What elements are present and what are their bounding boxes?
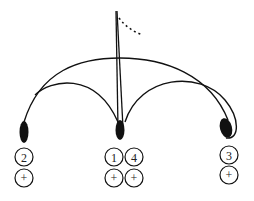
svg-text:3: 3: [226, 149, 232, 163]
svg-text:1: 1: [111, 151, 117, 165]
svg-text:2: 2: [21, 151, 27, 165]
circle-plus-mid-left: +: [105, 169, 123, 187]
svg-text:+: +: [226, 168, 233, 182]
circle-plus-right: +: [220, 166, 238, 184]
circle-4: 4: [125, 148, 143, 166]
right-arc: [125, 81, 236, 138]
circle-3: 3: [220, 146, 238, 164]
flag-dashed-line: [119, 18, 143, 35]
circle-1: 1: [105, 148, 123, 166]
circle-2: 2: [15, 148, 33, 166]
node-left: [20, 121, 29, 143]
outer-arc: [24, 58, 228, 122]
svg-text:+: +: [131, 171, 138, 185]
svg-text:+: +: [21, 171, 28, 185]
left-arc: [35, 83, 118, 122]
arc-diagram: 2 + 1 4 + + 3 +: [0, 0, 254, 201]
node-middle: [116, 120, 125, 140]
circle-plus-left: +: [15, 169, 33, 187]
node-right: [218, 117, 235, 139]
svg-text:4: 4: [131, 151, 137, 165]
circle-plus-mid-right: +: [125, 169, 143, 187]
svg-text:+: +: [111, 171, 118, 185]
flag-pole: [116, 11, 123, 128]
